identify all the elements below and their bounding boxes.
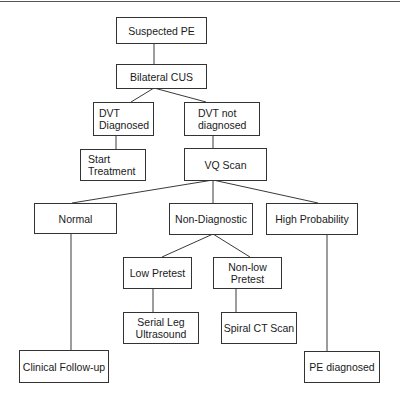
node-label: High Probability xyxy=(275,213,349,225)
node-label: VQ Scan xyxy=(204,159,246,171)
node-label: Normal xyxy=(59,213,93,225)
node-label: Serial Leg Ultrasound xyxy=(136,316,187,340)
node-bilateral-cus: Bilateral CUS xyxy=(116,64,207,89)
node-label: Start Treatment xyxy=(88,153,135,177)
node-label: PE diagnosed xyxy=(309,361,374,373)
node-start-treatment: Start Treatment xyxy=(80,149,146,181)
edge-non-diagnostic-to-low-pretest xyxy=(162,234,213,257)
node-dvt-not-diagnosed: DVT not diagnosed xyxy=(184,102,260,136)
node-high-probability: High Probability xyxy=(266,203,358,235)
node-clinical-follow-up: Clinical Follow-up xyxy=(19,350,109,383)
edge-vq-to-normal xyxy=(72,180,213,203)
node-label: Clinical Follow-up xyxy=(23,361,105,373)
edge-cus-to-dvt-not-diagnosed xyxy=(154,88,206,102)
node-dvt-diagnosed: DVT Diagnosed xyxy=(93,102,154,136)
node-label: Bilateral CUS xyxy=(130,71,193,83)
node-spiral-ct-scan: Spiral CT Scan xyxy=(221,312,297,344)
node-label: Non-low Pretest xyxy=(228,261,267,285)
node-suspected-pe: Suspected PE xyxy=(116,17,207,44)
node-label: Low Pretest xyxy=(130,267,185,279)
node-low-pretest: Low Pretest xyxy=(123,257,192,289)
node-serial-leg-ultrasound: Serial Leg Ultrasound xyxy=(123,312,199,344)
node-label: DVT not diagnosed xyxy=(198,107,246,131)
connector-lines xyxy=(0,0,400,402)
node-normal: Normal xyxy=(34,203,117,234)
node-label: Non-Diagnostic xyxy=(175,213,247,225)
node-non-diagnostic: Non-Diagnostic xyxy=(169,203,253,235)
edge-cus-to-dvt-diagnosed xyxy=(131,88,154,102)
node-label: Spiral CT Scan xyxy=(224,322,294,334)
node-label: Suspected PE xyxy=(128,25,195,37)
node-vq-scan: VQ Scan xyxy=(184,148,267,181)
edge-non-diagnostic-to-non-low-pretest xyxy=(213,234,250,257)
node-label: DVT Diagnosed xyxy=(99,107,149,131)
edge-vq-to-high-probability xyxy=(213,180,318,203)
node-non-low-pretest: Non-low Pretest xyxy=(213,257,282,289)
node-pe-diagnosed: PE diagnosed xyxy=(304,351,380,383)
